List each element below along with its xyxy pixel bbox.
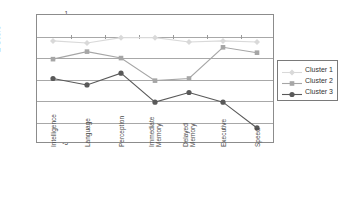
y-axis-title: Z-Score [0, 26, 1, 52]
chart-legend: Cluster 1Cluster 2Cluster 3 [277, 60, 338, 101]
data-point [254, 39, 260, 45]
data-point [85, 49, 90, 54]
data-point [220, 100, 225, 105]
data-point [186, 39, 192, 45]
legend-item-1[interactable]: Cluster 1 [281, 64, 333, 75]
series-2 [51, 45, 260, 83]
data-point [50, 76, 55, 81]
series-1 [50, 35, 260, 46]
x-axis-tick-label: Executive [220, 119, 227, 147]
legend-item-3[interactable]: Cluster 3 [281, 86, 333, 97]
legend-label: Cluster 1 [303, 66, 333, 73]
data-point [220, 38, 226, 44]
legend-item-2[interactable]: Cluster 2 [281, 75, 333, 86]
x-axis-tick-label: ImmediateMemory [148, 117, 162, 147]
data-point [152, 100, 157, 105]
data-point [187, 76, 192, 81]
x-axis-tick-label: Speed [254, 128, 261, 147]
data-point [255, 50, 260, 55]
data-point [51, 57, 56, 62]
legend-marker-icon [281, 64, 303, 75]
data-point [84, 82, 89, 87]
series-line [53, 47, 257, 80]
data-point [152, 35, 158, 41]
data-point [186, 90, 191, 95]
legend-label: Cluster 2 [303, 77, 333, 84]
legend-marker-icon [281, 75, 303, 86]
data-point [84, 40, 90, 46]
data-point [221, 45, 226, 50]
x-axis-tick-label: Perception [118, 116, 125, 147]
data-point [153, 78, 158, 83]
data-point [118, 35, 124, 41]
legend-label: Cluster 3 [303, 88, 333, 95]
x-axis-tick-label: Intelligence [50, 114, 57, 147]
x-axis-tick-label: Language [84, 118, 91, 147]
legend-marker-icon [281, 86, 303, 97]
data-point [119, 56, 124, 61]
data-point [50, 38, 56, 44]
x-axis-tick-label: DelayedMemory [182, 123, 196, 147]
line-chart: Z-Score 10-1-2-3-4-5 IntelligenceLanguag… [0, 0, 346, 201]
data-point [118, 71, 123, 76]
